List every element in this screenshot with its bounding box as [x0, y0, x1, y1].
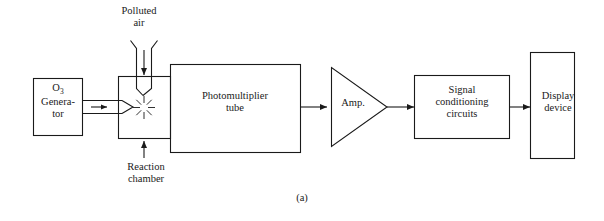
figure-container: O3Genera-tor Polluted air Reaction chamb…	[0, 0, 604, 221]
polluted-air-inlet-left-wall	[131, 41, 144, 96]
photomultiplier-tube-label: Photomultiplier tube	[172, 90, 298, 114]
signal-conditioning-label: Signal conditioning circuits	[416, 84, 508, 119]
reaction-chamber-box	[119, 77, 171, 139]
display-device-label: Display device	[528, 90, 588, 114]
figure-caption: (a)	[272, 192, 332, 204]
polluted-air-label: Polluted air	[98, 5, 180, 29]
amplifier-label: Amp.	[333, 97, 373, 109]
starburst-flash-icon	[133, 96, 155, 119]
reaction-chamber-label: Reaction chamber	[104, 161, 188, 185]
polluted-air-inlet-right-wall	[143, 41, 158, 96]
ozone-nozzle-tip	[122, 101, 133, 114]
block-diagram	[0, 0, 604, 221]
ozone-generator-label: O3Genera-tor	[33, 82, 83, 120]
ozone-subscript: 3	[60, 87, 64, 96]
